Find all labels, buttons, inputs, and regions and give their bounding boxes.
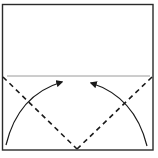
paper-square xyxy=(3,5,154,151)
origami-fold-diagram xyxy=(0,0,158,158)
